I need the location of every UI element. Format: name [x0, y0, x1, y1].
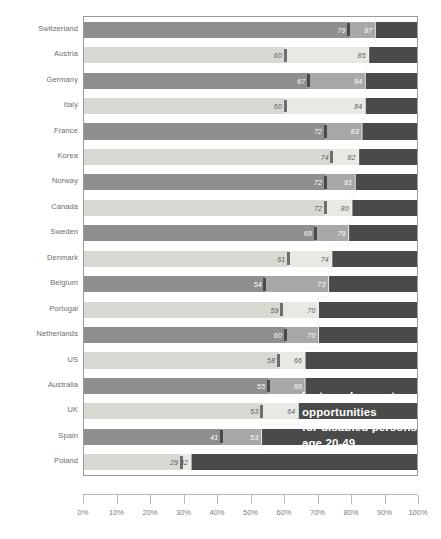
bar-value-label-nondisabled: 85: [353, 52, 366, 59]
bar-segment-disabled: [84, 225, 315, 241]
category-label: Canada: [0, 202, 78, 211]
bar-rows: 7987608567846084728374827281728069796174…: [84, 17, 417, 475]
bar-value-label-disabled: 79: [333, 26, 346, 33]
category-label: Sweden: [0, 227, 78, 236]
bar-value-marker: [284, 329, 287, 342]
bar-value-marker: [284, 49, 287, 62]
category-label: US: [0, 355, 78, 364]
plot-area: 7987608567846084728374827281728069796174…: [83, 16, 418, 476]
bar-value-marker: [267, 380, 270, 393]
bar-segment-disabled: [84, 200, 325, 216]
x-axis-tick: [117, 495, 118, 504]
bar-value-label-nondisabled: 84: [349, 77, 362, 84]
bar-value-marker: [324, 176, 327, 189]
x-axis: [83, 494, 418, 505]
bar-row: 6070: [84, 327, 417, 343]
category-label: Belgium: [0, 278, 78, 287]
bar-segment-disabled: [84, 327, 285, 343]
bar-value-label-disabled: 74: [316, 153, 329, 160]
bar-row: 6784: [84, 73, 417, 89]
bar-segment-disabled: [84, 429, 221, 445]
bar-row: 5970: [84, 302, 417, 318]
x-axis-tick: [385, 495, 386, 504]
x-axis-tick: [184, 495, 185, 504]
x-axis-label: 80%: [343, 508, 358, 517]
bar-value-label-disabled: 54: [249, 281, 262, 288]
bar-row: 7280: [84, 200, 417, 216]
bar-value-label-nondisabled: 81: [339, 179, 352, 186]
bar-value-label-disabled: 72: [309, 128, 322, 135]
bar-segment-disabled: [84, 302, 282, 318]
bar-value-marker: [284, 100, 287, 113]
bar-row: 7281: [84, 174, 417, 190]
bar-value-label-disabled: 60: [269, 332, 282, 339]
x-axis-label: 0%: [78, 508, 89, 517]
bar-segment-disabled: [84, 251, 288, 267]
bar-value-label-nondisabled: 64: [282, 408, 295, 415]
category-label: UK: [0, 405, 78, 414]
category-label: Italy: [0, 100, 78, 109]
bar-value-marker: [287, 252, 290, 265]
bar-segment-disabled: [84, 378, 268, 394]
bar-value-marker: [314, 227, 317, 240]
bar-segment-disabled: [84, 123, 325, 139]
bar-segment-disabled: [84, 174, 325, 190]
bar-segment-disabled: [84, 47, 285, 63]
bar-value-marker: [220, 430, 223, 443]
bar-segment-disabled: [84, 403, 262, 419]
bar-row: 6084: [84, 98, 417, 114]
bar-value-label-nondisabled: 73: [313, 281, 326, 288]
x-axis-tick: [251, 495, 252, 504]
bar-value-marker: [347, 23, 350, 36]
bar-value-label-disabled: 58: [262, 357, 275, 364]
bar-row: 7987: [84, 22, 417, 38]
bar-value-label-nondisabled: 32: [175, 459, 188, 466]
bar-row: 5866: [84, 352, 417, 368]
bar-value-label-disabled: 61: [272, 255, 285, 262]
bar-value-marker: [260, 405, 263, 418]
bar-value-label-nondisabled: 53: [246, 433, 259, 440]
bar-value-label-nondisabled: 84: [349, 103, 362, 110]
bar-value-marker: [307, 74, 310, 87]
category-label: Denmark: [0, 253, 78, 262]
bar-row: 6174: [84, 251, 417, 267]
bar-segment-disabled: [84, 276, 265, 292]
bar-segment-disabled: [84, 73, 308, 89]
bar-value-label-nondisabled: 83: [346, 128, 359, 135]
bar-row: 7482: [84, 149, 417, 165]
bar-value-marker: [263, 278, 266, 291]
bar-value-label-nondisabled: 66: [289, 382, 302, 389]
bar-value-label-disabled: 55: [252, 382, 265, 389]
bar-value-label-disabled: 41: [205, 433, 218, 440]
bar-value-marker: [330, 151, 333, 164]
bar-row: 4153: [84, 429, 417, 445]
bar-value-label-nondisabled: 70: [303, 332, 316, 339]
bar-value-label-nondisabled: 70: [303, 306, 316, 313]
bar-value-label-disabled: 69: [299, 230, 312, 237]
x-axis-label: 20%: [142, 508, 157, 517]
bar-value-label-disabled: 59: [266, 306, 279, 313]
category-label: Norway: [0, 176, 78, 185]
x-axis-tick: [318, 495, 319, 504]
bar-segment-disabled: [84, 98, 285, 114]
x-axis-tick: [150, 495, 151, 504]
bar-segment-disabled: [84, 22, 349, 38]
category-label: Australia: [0, 380, 78, 389]
bar-value-label-nondisabled: 87: [359, 26, 372, 33]
bar-row: 6085: [84, 47, 417, 63]
bar-value-marker: [280, 303, 283, 316]
category-label: Austria: [0, 49, 78, 58]
bar-value-label-disabled: 60: [269, 103, 282, 110]
bar-value-label-nondisabled: 66: [289, 357, 302, 364]
category-label: Switzerland: [0, 24, 78, 33]
x-axis-tick: [217, 495, 218, 504]
x-axis-label: 90%: [377, 508, 392, 517]
category-label: France: [0, 126, 78, 135]
bar-segment-disabled: [84, 352, 278, 368]
chart-container: SwitzerlandAustriaGermanyItalyFranceKore…: [0, 0, 441, 539]
x-axis-tick: [418, 495, 419, 504]
bar-value-label-disabled: 72: [309, 204, 322, 211]
x-axis-label: 70%: [310, 508, 325, 517]
bar-segment-disabled: [84, 149, 332, 165]
category-label: Korea: [0, 151, 78, 160]
